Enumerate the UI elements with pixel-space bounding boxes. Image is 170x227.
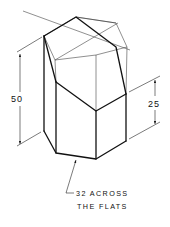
dimension-label-50: 50 [11,94,23,104]
note-line-2: THE FLATS [77,202,128,211]
dimension-label-25: 25 [148,99,160,109]
note-line-1: 32 ACROSS [76,189,129,198]
across-flats-note: 32 ACROSS THE FLATS [66,160,129,211]
construction-hexagon [23,11,130,111]
dimension-50: 50 [11,37,42,146]
dimension-25: 25 [129,76,160,139]
isometric-drawing: 50 25 32 ACROSS THE FLATS [0,0,170,227]
prism-outline [44,17,126,159]
